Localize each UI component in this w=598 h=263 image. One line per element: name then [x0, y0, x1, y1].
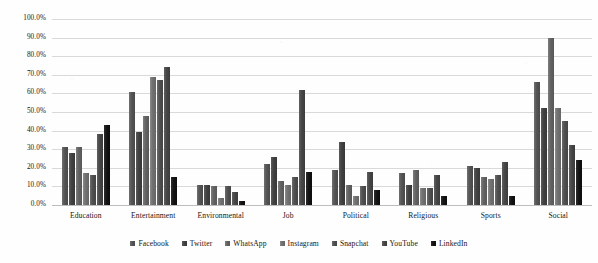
legend-swatch-icon: [130, 241, 135, 246]
y-axis-tick-label: 50.0%: [27, 108, 46, 115]
bar[interactable]: [420, 188, 426, 205]
legend-item[interactable]: Facebook: [130, 239, 168, 248]
bar[interactable]: [129, 92, 135, 205]
bar[interactable]: [218, 198, 224, 205]
chart-legend: FacebookTwitterWhatsAppInstagramSnapchat…: [0, 239, 598, 248]
bar[interactable]: [211, 186, 217, 205]
bar[interactable]: [467, 166, 473, 205]
bar[interactable]: [225, 186, 231, 205]
bar[interactable]: [555, 108, 561, 205]
bar[interactable]: [576, 160, 582, 205]
bar[interactable]: [346, 185, 352, 205]
bar[interactable]: [495, 175, 501, 205]
legend-item[interactable]: WhatsApp: [225, 239, 266, 248]
bar[interactable]: [197, 185, 203, 205]
bar[interactable]: [150, 77, 156, 205]
bar[interactable]: [502, 162, 508, 205]
bar[interactable]: [143, 116, 149, 205]
bar[interactable]: [406, 185, 412, 205]
bar[interactable]: [299, 90, 305, 205]
bar[interactable]: [83, 173, 89, 205]
bar[interactable]: [62, 147, 68, 205]
y-axis-tick-label: 0.0%: [31, 201, 46, 208]
bar[interactable]: [360, 186, 366, 205]
bar[interactable]: [239, 201, 245, 205]
bar[interactable]: [171, 177, 177, 205]
bar[interactable]: [413, 170, 419, 205]
legend-label: LinkedIn: [439, 239, 468, 248]
y-axis-tick-label: 60.0%: [27, 90, 46, 97]
bar[interactable]: [339, 142, 345, 205]
bar[interactable]: [264, 164, 270, 205]
bar-group: [255, 19, 323, 205]
bar[interactable]: [292, 177, 298, 205]
y-axis-tick-label: 10.0%: [27, 183, 46, 190]
legend-item[interactable]: LinkedIn: [431, 239, 468, 248]
bar[interactable]: [562, 121, 568, 205]
y-axis-tick-label: 20.0%: [27, 164, 46, 171]
bar[interactable]: [76, 147, 82, 205]
legend-swatch-icon: [225, 241, 230, 246]
bar[interactable]: [332, 170, 338, 205]
plot-area: [52, 19, 592, 205]
legend-item[interactable]: YouTube: [382, 239, 418, 248]
bar[interactable]: [90, 175, 96, 205]
x-axis-categories: EducationEntertainmentEnvironmentalJobPo…: [52, 212, 592, 228]
bar[interactable]: [534, 82, 540, 205]
legend-item[interactable]: Instagram: [280, 239, 319, 248]
y-axis-tick-label: 100.0%: [23, 15, 46, 22]
bar[interactable]: [441, 196, 447, 205]
bar[interactable]: [157, 80, 163, 205]
x-axis-category-label: Social: [525, 212, 593, 228]
x-axis-category-label: Political: [322, 212, 390, 228]
legend-label: Facebook: [138, 239, 168, 248]
bar-group: [52, 19, 120, 205]
bar[interactable]: [399, 173, 405, 205]
y-axis-tick-label: 40.0%: [27, 127, 46, 134]
bar[interactable]: [374, 190, 380, 205]
bar[interactable]: [104, 125, 110, 205]
x-axis-category-label: Religious: [390, 212, 458, 228]
bar[interactable]: [569, 145, 575, 205]
bar[interactable]: [285, 185, 291, 205]
legend-item[interactable]: Twitter: [182, 239, 213, 248]
legend-swatch-icon: [182, 241, 187, 246]
y-axis: 100.0%90.0%80.0%70.0%60.0%50.0%40.0%30.0…: [0, 0, 50, 224]
bar-group: [120, 19, 188, 205]
bar[interactable]: [488, 179, 494, 205]
legend-swatch-icon: [332, 241, 337, 246]
bar[interactable]: [97, 134, 103, 205]
bar[interactable]: [136, 132, 142, 205]
bar[interactable]: [481, 177, 487, 205]
bar[interactable]: [278, 181, 284, 205]
legend-label: YouTube: [390, 239, 418, 248]
x-axis-category-label: Entertainment: [120, 212, 188, 228]
bar[interactable]: [427, 188, 433, 205]
bar[interactable]: [509, 196, 515, 205]
bar[interactable]: [541, 108, 547, 205]
bar[interactable]: [271, 157, 277, 205]
bar[interactable]: [232, 192, 238, 205]
y-axis-tick-label: 70.0%: [27, 71, 46, 78]
legend-label: WhatsApp: [233, 239, 266, 248]
bar-groups: [52, 19, 592, 205]
y-axis-tick-label: 30.0%: [27, 146, 46, 153]
x-axis-category-label: Sports: [457, 212, 525, 228]
bar[interactable]: [306, 172, 312, 205]
gridline: [52, 205, 592, 206]
legend-item[interactable]: Snapchat: [332, 239, 369, 248]
bar[interactable]: [69, 153, 75, 205]
bar[interactable]: [548, 38, 554, 205]
cropped-title-text: · · ·: [0, 0, 598, 4]
bar[interactable]: [353, 196, 359, 205]
x-axis-category-label: Education: [52, 212, 120, 228]
legend-label: Instagram: [288, 239, 319, 248]
bar[interactable]: [474, 168, 480, 205]
bar[interactable]: [367, 172, 373, 205]
legend-swatch-icon: [431, 241, 436, 246]
bar[interactable]: [204, 185, 210, 205]
bar[interactable]: [164, 67, 170, 205]
bar-group: [457, 19, 525, 205]
bar[interactable]: [434, 175, 440, 205]
bar-chart: · · · 100.0%90.0%80.0%70.0%60.0%50.0%40.…: [0, 0, 598, 263]
